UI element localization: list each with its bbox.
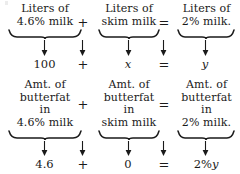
row2-plus-down-arrow bbox=[78, 141, 87, 156]
row2-term1-line4: 4.6% milk bbox=[8, 117, 82, 130]
row1-equals-down-arrow bbox=[159, 40, 168, 56]
row2-term1-line3: in bbox=[8, 104, 82, 117]
row2-term2-line1: Amt. of bbox=[97, 79, 161, 92]
row2-term3-label: Amt. of butterfat in 2% milk. bbox=[177, 79, 236, 129]
row1-term2-down-arrow bbox=[124, 40, 133, 56]
row1-term1-label: Liters of 4.6% milk bbox=[8, 3, 82, 28]
row2-operator-equals: = bbox=[157, 98, 171, 111]
row2-value3-variable: y bbox=[212, 157, 219, 171]
row1-value3: y bbox=[191, 58, 219, 71]
row1-values-operator-plus: + bbox=[76, 58, 90, 71]
row1-operator-equals: = bbox=[157, 16, 171, 29]
row1-term1-down-arrow bbox=[40, 40, 49, 56]
row2-values-operator-plus: + bbox=[76, 158, 90, 171]
row2-value3-prefix: 2% bbox=[194, 157, 212, 171]
row1-values-operator-equals: = bbox=[157, 58, 171, 71]
row2-term3-line1: Amt. of bbox=[177, 79, 236, 92]
row1-term2-line2: skim milk bbox=[97, 16, 161, 29]
row2-term2-line3: in bbox=[97, 104, 161, 117]
row2-term1-down-arrow bbox=[40, 141, 49, 156]
row2-term3-underbrace bbox=[177, 130, 235, 141]
row2-term2-underbrace bbox=[98, 130, 160, 141]
row2-term1-line1: Amt. of bbox=[8, 79, 82, 92]
row2-equals-down-arrow bbox=[159, 141, 168, 156]
row2-term2-label: Amt. of butterfat in skim milk bbox=[97, 79, 161, 129]
row2-term1-label: Amt. of butterfat in 4.6% milk bbox=[8, 79, 82, 129]
row2-term3-line3: in bbox=[177, 104, 236, 117]
row2-term1-underbrace bbox=[8, 130, 82, 141]
row1-term1-underbrace bbox=[8, 29, 82, 40]
row1-term3-line2: 2% milk. bbox=[177, 16, 236, 29]
row2-values-operator-equals: = bbox=[157, 158, 171, 171]
row1-term3-underbrace bbox=[177, 29, 235, 40]
row2-value2: 0 bbox=[114, 158, 142, 171]
row2-term3-line4: 2% milk. bbox=[177, 117, 236, 130]
row1-term2-line1: Liters of bbox=[97, 3, 161, 16]
math-diagram: Liters of 4.6% milk + Liters of skim mil… bbox=[0, 0, 240, 174]
row1-term3-down-arrow bbox=[201, 40, 210, 56]
row1-term2-underbrace bbox=[98, 29, 160, 40]
row2-operator-plus: + bbox=[76, 98, 90, 111]
row1-value2: x bbox=[114, 58, 142, 71]
row1-term1-line1: Liters of bbox=[8, 3, 82, 16]
row1-value1: 100 bbox=[28, 58, 61, 71]
row2-term3-down-arrow bbox=[201, 141, 210, 156]
row1-term3-label: Liters of 2% milk. bbox=[177, 3, 236, 28]
row2-value3: 2%y bbox=[188, 158, 224, 171]
row1-term3-line1: Liters of bbox=[177, 3, 236, 16]
row1-operator-plus: + bbox=[76, 16, 90, 29]
row1-term1-line2: 4.6% milk bbox=[8, 16, 82, 29]
row2-value1: 4.6 bbox=[28, 158, 61, 171]
row2-term2-down-arrow bbox=[124, 141, 133, 156]
row2-term2-line4: skim milk bbox=[97, 117, 161, 130]
row1-plus-down-arrow bbox=[78, 40, 87, 56]
row1-term2-label: Liters of skim milk bbox=[97, 3, 161, 28]
